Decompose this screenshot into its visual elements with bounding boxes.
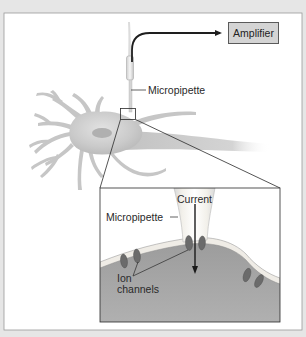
ion-label-line1: Ion [117,273,132,284]
diagram-stage: Amplifier Micropipette Micropipette Curr… [0,0,306,337]
inset-detail [100,188,280,322]
micropipette-label: Micropipette [148,85,205,96]
nucleus [92,128,112,138]
pipette-tip [129,80,132,112]
micropipette-inset-label: Micropipette [106,212,163,223]
current-label: Current [177,194,212,205]
ion-label-line2: channels [117,284,159,295]
amplifier-label: Amplifier [233,27,274,39]
amplifier-box: Amplifier [228,22,279,44]
